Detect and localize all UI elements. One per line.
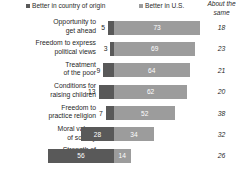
about-the-same-column-header: About the same: [198, 0, 245, 17]
stacked-bar[interactable]: 64: [103, 63, 189, 77]
bar-segment-us[interactable]: 73: [114, 21, 200, 35]
bar-segment-us[interactable]: 14: [114, 149, 131, 163]
bar-value-origin: 13: [88, 85, 96, 99]
row-bar-area: 64921: [0, 60, 245, 81]
chart-row: Treatmentof the poor64921: [0, 60, 245, 81]
bar-segment-us[interactable]: 64: [114, 63, 190, 77]
bar-segment-us[interactable]: 62: [114, 85, 187, 99]
legend-label-origin: Better in country of origin: [32, 3, 105, 10]
bar-value-origin: 5: [97, 21, 105, 35]
row-bar-area: 52738: [0, 103, 245, 124]
bar-value-origin: 9: [92, 63, 100, 77]
bar-value-origin: 7: [95, 106, 103, 120]
stacked-bar[interactable]: 73: [108, 21, 200, 35]
bar-segment-origin[interactable]: [106, 106, 114, 120]
chart-row: Freedom topractice religion52738: [0, 103, 245, 124]
square-swatch-icon: [26, 4, 30, 8]
bar-segment-us[interactable]: 69: [114, 42, 195, 56]
square-swatch-icon: [139, 4, 143, 8]
chart-footnote: [0, 164, 245, 170]
stacked-bar[interactable]: 62: [99, 85, 188, 99]
stacked-bar[interactable]: 5614: [48, 149, 131, 163]
legend-entry-us: Better in U.S.: [139, 3, 184, 10]
about-the-same-value: 26: [198, 149, 245, 163]
about-the-same-header-line2: same: [198, 9, 245, 18]
legend-entry-origin: Better in country of origin: [26, 3, 105, 10]
row-bar-area: 69323: [0, 38, 245, 59]
bar-segment-origin[interactable]: [99, 85, 114, 99]
chart-row: Opportunity toget ahead73518: [0, 17, 245, 38]
row-bar-area: 621320: [0, 81, 245, 102]
about-the-same-value: 18: [198, 21, 245, 35]
about-the-same-value: 23: [198, 42, 245, 56]
about-the-same-value: 20: [198, 85, 245, 99]
stacked-bar-chart: Better in country of origin Better in U.…: [0, 0, 245, 170]
legend-label-us: Better in U.S.: [145, 3, 184, 10]
bar-segment-us[interactable]: 34: [114, 127, 154, 141]
row-bar-area: 73518: [0, 17, 245, 38]
about-the-same-value: 32: [198, 127, 245, 141]
about-the-same-value: 38: [198, 106, 245, 120]
chart-row: Conditions forraising children621320: [0, 81, 245, 102]
bar-segment-origin[interactable]: 56: [48, 149, 114, 163]
bar-segment-origin[interactable]: [103, 63, 114, 77]
chart-row: Freedom to expresspolitical views69323: [0, 38, 245, 59]
chart-row: Moral valuesof society283432: [0, 124, 245, 145]
stacked-bar[interactable]: 69: [110, 42, 195, 56]
row-bar-area: 283432: [0, 124, 245, 145]
bar-value-origin: 3: [99, 42, 107, 56]
stacked-bar[interactable]: 2834: [81, 127, 154, 141]
chart-rows: Opportunity toget ahead73518Freedom to e…: [0, 17, 245, 167]
bar-segment-origin[interactable]: 28: [81, 127, 114, 141]
bar-segment-us[interactable]: 52: [114, 106, 175, 120]
about-the-same-value: 21: [198, 63, 245, 77]
about-the-same-header-line1: About the: [198, 0, 245, 9]
stacked-bar[interactable]: 52: [106, 106, 176, 120]
